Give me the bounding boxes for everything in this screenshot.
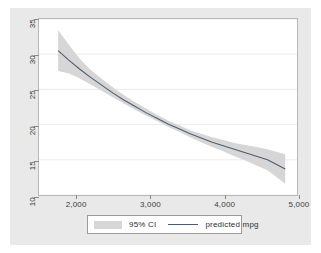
y-axis-tick-label: 30 (28, 55, 37, 64)
legend-entry-predicted: predicted mpg (156, 220, 258, 229)
x-axis-tick-label: 2,000 (66, 200, 87, 209)
y-axis-tick-label: 25 (28, 90, 37, 99)
x-axis-tick (299, 195, 300, 199)
x-axis-tick (150, 195, 151, 199)
plot-area: 101520253035 2,0003,0004,0005,000 (38, 18, 298, 196)
legend-label-predicted: predicted mpg (205, 220, 258, 229)
figure-background: 101520253035 2,0003,0004,0005,000 Weight… (10, 8, 311, 245)
confidence-interval-band (58, 30, 285, 183)
x-axis-tick-label: 4,000 (214, 200, 235, 209)
x-axis-tick-label: 5,000 (288, 200, 309, 209)
x-axis-tick (225, 195, 226, 199)
legend-entry-ci: 95% CI (88, 220, 156, 229)
legend-swatch-ci-icon (94, 221, 122, 229)
x-axis-tick-label: 3,000 (140, 200, 161, 209)
y-axis-tick-label: 20 (28, 126, 37, 135)
legend-label-ci: 95% CI (129, 220, 156, 229)
legend-line-predicted-icon (168, 224, 198, 225)
y-axis-tick-label: 10 (28, 197, 37, 206)
plot-canvas (39, 19, 297, 195)
gridlines-group (39, 19, 297, 195)
x-axis-tick (76, 195, 77, 199)
y-axis-tick-label: 15 (28, 161, 37, 170)
chart-legend: 95% CI predicted mpg (87, 215, 242, 234)
y-axis-tick-label: 35 (28, 19, 37, 28)
